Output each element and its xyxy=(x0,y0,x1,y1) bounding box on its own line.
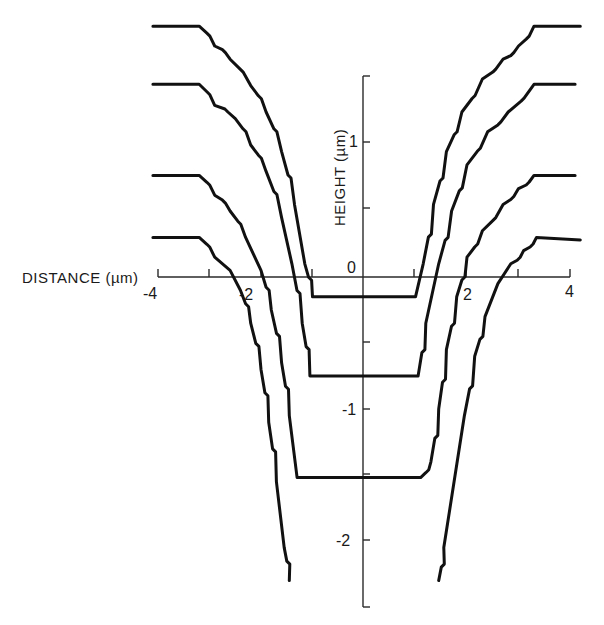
x-tick-label: 4 xyxy=(565,283,574,300)
profile-curves xyxy=(153,26,580,580)
y-tick-label: -2 xyxy=(336,532,350,549)
chart-canvas: -4 -2 0 2 4 1 -1 -2 DISTANCE (µm) HEIGHT… xyxy=(0,0,604,625)
y-tick-label: -1 xyxy=(342,401,356,418)
x-axis-title: DISTANCE (µm) xyxy=(22,269,139,286)
x-tick-label: 0 xyxy=(347,259,356,276)
profile-curve-1 xyxy=(153,26,580,297)
height-profile-chart: -4 -2 0 2 4 1 -1 -2 DISTANCE (µm) HEIGHT… xyxy=(0,0,604,625)
y-tick-label: 1 xyxy=(349,133,358,150)
profile-curve-2 xyxy=(153,84,575,376)
profile-curve-3 xyxy=(153,175,575,477)
y-axis-title: HEIGHT (µm) xyxy=(331,129,348,226)
x-tick-label: -4 xyxy=(143,285,157,302)
y-axis xyxy=(363,76,370,607)
x-tick-label: 2 xyxy=(463,286,472,303)
